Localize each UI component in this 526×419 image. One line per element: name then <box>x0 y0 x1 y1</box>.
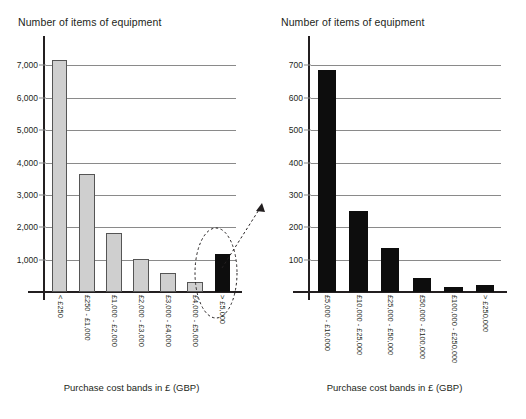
x-axis-labels-left: < £250£250 - £1,000£1,000 - £2,000£2,000… <box>46 292 236 356</box>
plot-area-left: 1,0002,0003,0004,0005,0006,0007,000 < £2… <box>46 46 236 292</box>
y-tick-label: 3,000 <box>17 190 38 200</box>
x-tick-label: £3,000 - £4,000 <box>164 295 173 347</box>
x-tick-label: > £5,000 <box>218 295 227 324</box>
bar[interactable] <box>160 273 176 292</box>
bar[interactable] <box>413 278 431 292</box>
bar[interactable] <box>52 60 68 292</box>
x-tick-label: < £250 <box>55 295 64 318</box>
x-label-slot: £4,000 - £5,000 <box>182 292 209 356</box>
bar-slot[interactable] <box>100 46 127 292</box>
x-label-slot: > £5,000 <box>209 292 236 356</box>
x-label-slot: £25,000 - £50,000 <box>374 292 406 356</box>
y-tick-label: 300 <box>289 190 303 200</box>
bar-slot[interactable] <box>127 46 154 292</box>
y-tick-label: 7,000 <box>17 60 38 70</box>
x-tick-label: £1,000 - £2,000 <box>110 295 119 347</box>
x-tick-label: > £250,000 <box>481 295 490 332</box>
y-tick-label: 400 <box>289 158 303 168</box>
x-axis-caption-right: Purchase cost bands in £ (GBP) <box>263 382 526 393</box>
bar-slot[interactable] <box>209 46 236 292</box>
y-tick-label: 600 <box>289 93 303 103</box>
bar[interactable] <box>215 254 231 292</box>
bar-slot[interactable] <box>311 46 343 292</box>
plot-area-right: 100200300400500600700 £5,000 - £10,000£1… <box>311 46 501 292</box>
x-tick-label: £5,000 - £10,000 <box>323 295 332 351</box>
y-tick-mark <box>39 162 46 163</box>
x-tick-label: £2,000 - £3,000 <box>137 295 146 347</box>
x-tick-label: £50,000 - £100,000 <box>418 295 427 359</box>
bar-slot[interactable] <box>343 46 375 292</box>
bar-slot[interactable] <box>46 46 73 292</box>
bar-slot[interactable] <box>155 46 182 292</box>
y-tick-label: 700 <box>289 60 303 70</box>
x-label-slot: > £250,000 <box>469 292 501 356</box>
x-label-slot: £3,000 - £4,000 <box>155 292 182 356</box>
y-tick-label: 6,000 <box>17 93 38 103</box>
bar[interactable] <box>187 282 203 292</box>
y-tick-mark <box>39 65 46 66</box>
x-label-slot: £5,000 - £10,000 <box>311 292 343 356</box>
y-tick-label: 4,000 <box>17 158 38 168</box>
y-tick-label: 200 <box>289 222 303 232</box>
y-tick-mark <box>304 97 311 98</box>
chart-panel-right: Number of items of equipment 10020030040… <box>263 0 526 419</box>
y-tick-mark <box>39 227 46 228</box>
y-tick-label: 2,000 <box>17 222 38 232</box>
bar-slot[interactable] <box>406 46 438 292</box>
y-tick-mark <box>304 162 311 163</box>
bar[interactable] <box>79 174 95 292</box>
bar[interactable] <box>349 211 367 292</box>
x-label-slot: £2,000 - £3,000 <box>127 292 154 356</box>
x-tick-label: £250 - £1,000 <box>82 295 91 341</box>
y-tick-mark <box>304 130 311 131</box>
y-tick-mark <box>39 194 46 195</box>
y-tick-mark <box>39 130 46 131</box>
y-tick-mark <box>304 194 311 195</box>
bar-series-left <box>46 46 236 292</box>
x-tick-label: £100,000 - £250,000 <box>449 295 458 363</box>
y-tick-mark <box>304 259 311 260</box>
x-axis-labels-right: £5,000 - £10,000£10,000 - £25,000£25,000… <box>311 292 501 356</box>
bar[interactable] <box>318 70 336 292</box>
x-axis-caption-left: Purchase cost bands in £ (GBP) <box>0 382 263 393</box>
y-tick-label: 100 <box>289 255 303 265</box>
chart-title-left: Number of items of equipment <box>18 16 161 28</box>
bar[interactable] <box>476 285 494 292</box>
chart-title-right: Number of items of equipment <box>281 16 424 28</box>
x-label-slot: £100,000 - £250,000 <box>438 292 470 356</box>
x-tick-label: £4,000 - £5,000 <box>191 295 200 347</box>
x-label-slot: £250 - £1,000 <box>73 292 100 356</box>
bar[interactable] <box>106 233 122 292</box>
y-tick-label: 5,000 <box>17 125 38 135</box>
y-axis-line-right <box>308 36 310 300</box>
x-tick-label: £10,000 - £25,000 <box>354 295 363 355</box>
x-label-slot: £10,000 - £25,000 <box>343 292 375 356</box>
x-label-slot: £50,000 - £100,000 <box>406 292 438 356</box>
bar[interactable] <box>381 248 399 292</box>
y-tick-mark <box>304 65 311 66</box>
y-tick-mark <box>39 259 46 260</box>
bar-slot[interactable] <box>182 46 209 292</box>
x-tick-label: £25,000 - £50,000 <box>386 295 395 355</box>
bar-slot[interactable] <box>374 46 406 292</box>
bar[interactable] <box>133 259 149 292</box>
bar-slot[interactable] <box>469 46 501 292</box>
y-tick-label: 1,000 <box>17 255 38 265</box>
y-tick-label: 500 <box>289 125 303 135</box>
bar-slot[interactable] <box>438 46 470 292</box>
y-tick-mark <box>304 227 311 228</box>
bar-series-right <box>311 46 501 292</box>
bar-slot[interactable] <box>73 46 100 292</box>
y-tick-mark <box>39 97 46 98</box>
chart-panel-left: Number of items of equipment 1,0002,0003… <box>0 0 263 419</box>
x-label-slot: < £250 <box>46 292 73 356</box>
x-label-slot: £1,000 - £2,000 <box>100 292 127 356</box>
y-axis-line-left <box>43 36 45 300</box>
